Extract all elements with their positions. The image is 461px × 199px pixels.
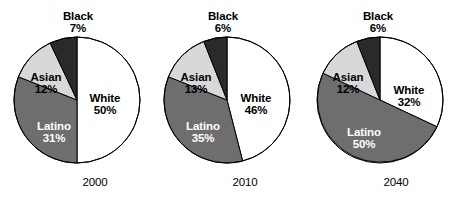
slice-label-name: Asian bbox=[308, 71, 388, 83]
slice-label-value: 32% bbox=[369, 96, 449, 108]
slice-label-name: Black bbox=[338, 10, 418, 22]
slice-label-2040-latino: Latino50% bbox=[324, 126, 404, 151]
slice-label-value: 50% bbox=[324, 138, 404, 150]
slice-label-2040-black: Black6% bbox=[338, 10, 418, 35]
slice-label-name: Latino bbox=[324, 126, 404, 138]
year-label-2040: 2040 bbox=[356, 176, 436, 188]
slice-label-value: 6% bbox=[338, 22, 418, 34]
pie-chart-figure: White50%Latino31%Asian12%Black7%2000Whit… bbox=[0, 0, 461, 199]
slice-label-value: 12% bbox=[308, 83, 388, 95]
slice-label-2040-asian: Asian12% bbox=[308, 71, 388, 96]
